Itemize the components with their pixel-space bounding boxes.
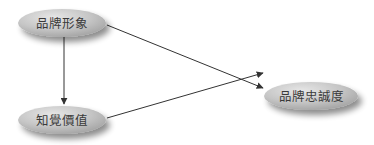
node-brand-image: 品牌形象 — [18, 9, 106, 37]
node-label: 知覺價值 — [36, 113, 88, 128]
edge-brand-image-to-brand-loyalty — [107, 25, 263, 88]
node-label: 品牌形象 — [36, 16, 88, 31]
path-diagram: 品牌形象 知覺價值 品牌忠誠度 — [0, 0, 374, 145]
node-perceived-value: 知覺價值 — [18, 106, 106, 134]
edge-perceived-value-to-brand-loyalty — [107, 73, 263, 118]
node-brand-loyalty: 品牌忠誠度 — [264, 82, 358, 110]
node-label: 品牌忠誠度 — [279, 89, 344, 104]
